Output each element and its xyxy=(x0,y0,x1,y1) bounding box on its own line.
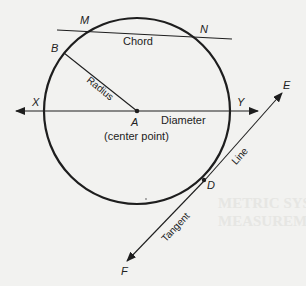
point-label-m: M xyxy=(80,15,89,26)
point-label-f: F xyxy=(121,266,128,277)
chord-label: Chord xyxy=(123,36,153,47)
point-label-e: E xyxy=(283,80,290,91)
circle-diagram: METRIC SYSTEM AND THE MEASUREMENT M N B … xyxy=(0,0,306,286)
tangent-line-down xyxy=(127,181,204,261)
center-point-label: (center point) xyxy=(104,131,169,142)
tangent-point-dot xyxy=(202,178,206,182)
diameter-label: Diameter xyxy=(161,115,206,126)
smudge-mark xyxy=(145,198,147,200)
point-label-d: D xyxy=(207,180,215,191)
geometry-figure xyxy=(0,0,306,286)
point-label-n: N xyxy=(200,24,208,35)
point-label-b: B xyxy=(51,43,58,54)
point-label-x: X xyxy=(32,97,39,108)
point-label-a: A xyxy=(131,117,138,128)
point-label-y: Y xyxy=(237,97,244,108)
center-point-dot xyxy=(135,109,140,114)
